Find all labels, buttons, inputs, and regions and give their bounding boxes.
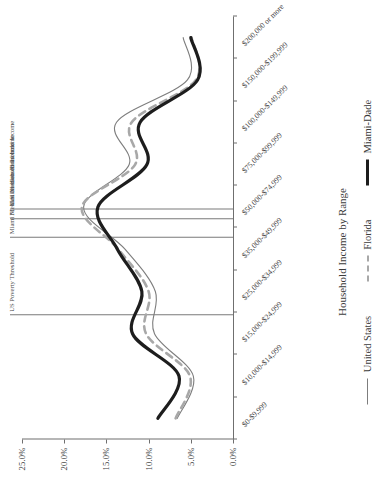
x-axis-title: Household Income by Range: [336, 0, 348, 503]
rotated-chart-container: 0.0%5.0%10.0%15.0%20.0%25.0% $0-$9,999$1…: [0, 0, 386, 503]
chart-legend: United States Florida Miami-Dade: [362, 0, 373, 503]
legend-label: United States: [362, 315, 373, 371]
legend-label: Miami-Dade: [362, 99, 373, 153]
series-line-miami-dade: [97, 37, 200, 418]
legend-label: Florida: [362, 219, 373, 249]
chart-figure: 0.0%5.0%10.0%15.0%20.0%25.0% $0-$9,999$1…: [0, 0, 386, 503]
legend-item-united-states[interactable]: United States: [362, 315, 373, 403]
legend-item-miami-dade[interactable]: Miami-Dade: [362, 99, 373, 185]
legend-swatch-dashed-line-icon: [367, 255, 369, 281]
legend-swatch-bold-line-icon: [366, 159, 369, 185]
legend-swatch-line-icon: [367, 378, 368, 404]
chart-plot-area: [0, 0, 386, 503]
legend-item-florida[interactable]: Florida: [362, 219, 373, 281]
